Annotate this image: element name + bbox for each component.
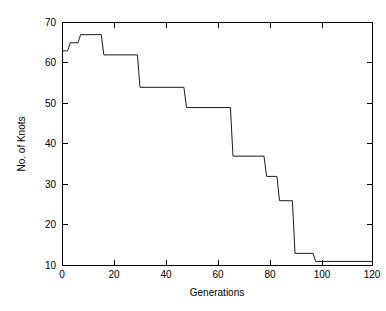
chart-background [0,0,386,311]
x-tick-label-3: 60 [212,269,224,280]
y-tick-label-5: 60 [45,57,57,68]
y-tick-label-2: 30 [45,179,57,190]
x-tick-label-6: 120 [364,269,381,280]
chart-figure: 0 20 40 60 80 100 120 10 20 30 40 50 60 … [0,0,386,311]
x-tick-label-4: 80 [264,269,276,280]
y-tick-label-3: 40 [45,138,57,149]
chart-canvas: 0 20 40 60 80 100 120 10 20 30 40 50 60 … [0,0,386,311]
y-tick-label-1: 20 [45,219,57,230]
x-tick-label-0: 0 [59,269,65,280]
x-tick-label-1: 20 [108,269,120,280]
y-tick-label-6: 70 [45,17,57,28]
y-tick-label-4: 50 [45,98,57,109]
x-axis-title: Generations [190,287,244,298]
y-tick-label-0: 10 [45,260,57,271]
y-axis-title: No. of Knots [16,116,27,171]
x-tick-label-5: 100 [314,269,331,280]
x-tick-label-2: 40 [160,269,172,280]
